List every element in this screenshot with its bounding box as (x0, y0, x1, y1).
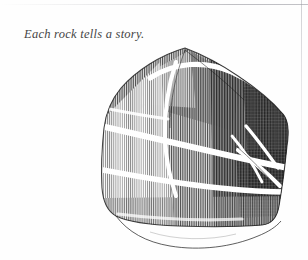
rock-body (95, 40, 295, 235)
ground-contour-line-secondary (150, 232, 236, 239)
rock-illustration (0, 0, 308, 260)
scanned-page: Each rock tells a story. (0, 0, 308, 260)
